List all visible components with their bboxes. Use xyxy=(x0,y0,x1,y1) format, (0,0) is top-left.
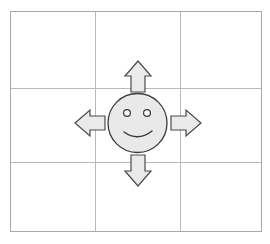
face-outline xyxy=(108,94,167,153)
eye-left-icon xyxy=(124,110,131,117)
diagram-canvas xyxy=(0,0,270,244)
smiley-direction-diagram xyxy=(0,0,270,244)
cell-bottom-right[interactable] xyxy=(180,162,262,232)
eye-right-icon xyxy=(144,110,151,117)
smiley-face-icon[interactable] xyxy=(108,94,167,153)
cell-top-right[interactable] xyxy=(180,11,262,88)
cell-bottom-left[interactable] xyxy=(10,162,95,232)
cell-top-left[interactable] xyxy=(10,11,95,88)
